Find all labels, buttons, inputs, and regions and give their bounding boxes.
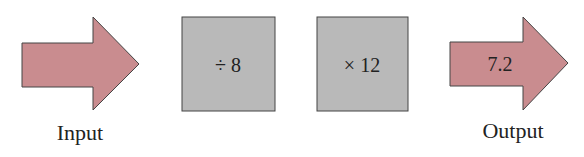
input-label: Input [20, 120, 140, 146]
output-label: Output [453, 118, 573, 144]
input-arrow [22, 17, 139, 110]
divide-step-text: ÷ 8 [215, 54, 241, 76]
output-value: 7.2 [488, 53, 513, 75]
multiply-step-text: × 12 [344, 54, 380, 76]
